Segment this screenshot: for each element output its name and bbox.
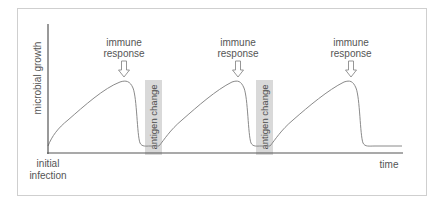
origin-label-line2: infection bbox=[29, 170, 66, 181]
immune-response-label-3a: immune bbox=[333, 37, 369, 48]
immune-response-label-2b: response bbox=[217, 48, 259, 59]
immune-response-label-2a: immune bbox=[220, 37, 256, 48]
x-axis-label: time bbox=[380, 159, 399, 170]
immune-response-label-1b: response bbox=[103, 48, 145, 59]
origin-label-line1: initial bbox=[37, 158, 60, 169]
immune-response-label-3b: response bbox=[330, 48, 372, 59]
antigenic-variation-diagram: antigen change antigen change microbial … bbox=[0, 0, 445, 205]
antigen-change-band-1: antigen change bbox=[145, 80, 162, 155]
antigen-change-label-2: antigen change bbox=[259, 85, 270, 150]
antigen-change-band-2: antigen change bbox=[256, 80, 273, 155]
y-axis-label: microbial growth bbox=[32, 42, 43, 115]
antigen-change-label-1: antigen change bbox=[148, 85, 159, 150]
immune-response-label-1a: immune bbox=[106, 37, 142, 48]
